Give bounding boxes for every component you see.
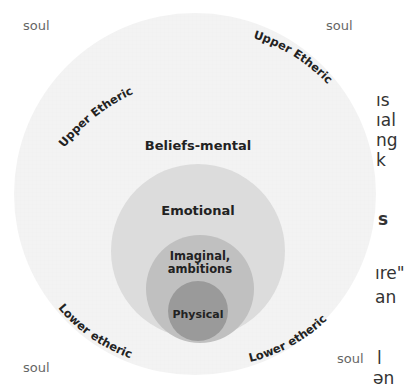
imaginal-label-line1: Imaginal, <box>170 249 230 263</box>
physical-label: Physical <box>172 308 223 321</box>
soul-label-bottom-right: soul <box>337 351 364 366</box>
imaginal-label-line2: ambitions <box>168 262 232 276</box>
nested-circles-diagram: Beliefs-mental Emotional Imaginal, ambit… <box>0 0 418 391</box>
soul-label-top-right: soul <box>326 18 353 33</box>
soul-label-bottom-left: soul <box>23 360 50 375</box>
beliefs-mental-label: Beliefs-mental <box>145 138 251 153</box>
soul-label-top-left: soul <box>23 18 50 33</box>
emotional-label: Emotional <box>161 203 234 218</box>
